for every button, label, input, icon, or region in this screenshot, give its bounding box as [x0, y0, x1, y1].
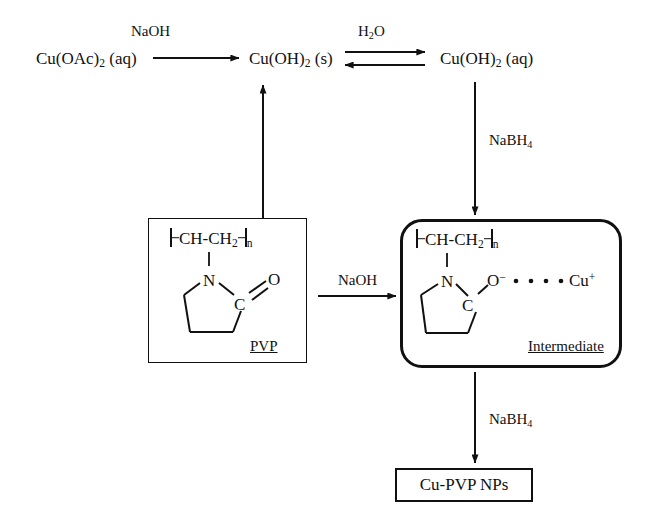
pvp-atom-carbon: C [234, 296, 245, 313]
species-copper-hydroxide-aqueous: Cu(OH)2 (aq) [440, 50, 533, 70]
intermediate-repeat-unit: CH-CH2n [416, 230, 498, 251]
pvp-atom-oxygen: O [268, 271, 280, 288]
arrow-equilibrium-water [345, 52, 425, 65]
product-label: Cu-PVP NPs [420, 475, 509, 495]
condition-water: H2O [358, 24, 385, 41]
product-box: Cu-PVP NPs [395, 468, 533, 502]
pvp-atom-nitrogen: N [203, 272, 215, 289]
bracket-close-icon [484, 230, 493, 247]
species-copper-acetate: Cu(OAc)2 (aq) [36, 50, 137, 70]
intermediate-atom-nitrogen: N [441, 273, 453, 290]
bracket-open-icon [170, 229, 179, 246]
intermediate-atom-copper: Cu+ [569, 272, 595, 289]
condition-nabh4-bottom: NaBH4 [489, 412, 532, 429]
intermediate-atom-oxygen: O− [487, 272, 506, 289]
pvp-repeat-unit: CH-CH2n [170, 229, 252, 250]
intermediate-atom-carbon: C [462, 297, 473, 314]
bracket-open-icon [416, 230, 425, 247]
intermediate-label: Intermediate [528, 338, 604, 355]
condition-naoh-middle: NaOH [338, 273, 377, 288]
pvp-label: PVP [250, 338, 278, 355]
bracket-close-icon [238, 229, 247, 246]
condition-nabh4-right: NaBH4 [489, 133, 532, 150]
condition-naoh-top: NaOH [131, 24, 170, 39]
reaction-scheme-diagram: Cu(OAc)2 (aq) Cu(OH)2 (s) Cu(OH)2 (aq) N… [0, 0, 645, 520]
species-copper-hydroxide-solid: Cu(OH)2 (s) [249, 50, 333, 70]
